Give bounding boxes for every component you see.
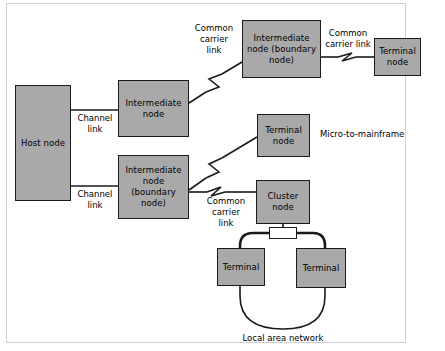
node-intermediate-boundary-top-label: Intermediate node (boundary node) (243, 33, 320, 66)
node-host-label: Host node (21, 138, 65, 149)
node-terminal-left-label: Terminal (223, 262, 260, 273)
diagram-canvas: Host node Intermediate node Intermediate… (0, 0, 445, 351)
annotation-local-area-network: Local area network (233, 333, 333, 344)
line-common-carrier-upper-seg1 (189, 92, 206, 103)
line-lan-loop (240, 285, 325, 329)
line-common-carrier-mid-seg2 (222, 137, 257, 158)
label-common-carrier-link-upper: Common carrier link (183, 23, 245, 56)
line-common-carrier-upper-zigzag (206, 74, 222, 92)
label-channel-link-bottom: Channel link (72, 189, 118, 211)
node-terminal-node-mid[interactable]: Terminal node (257, 114, 310, 157)
node-terminal-right-label: Terminal (303, 263, 340, 274)
node-intermediate-boundary-left-label: Intermediate node (boundary node) (119, 165, 188, 209)
node-terminal-right[interactable]: Terminal (296, 248, 346, 288)
node-host[interactable]: Host node (15, 85, 71, 201)
node-intermediate-top-label: Intermediate node (119, 98, 188, 120)
node-intermediate-boundary-left[interactable]: Intermediate node (boundary node) (118, 155, 189, 219)
annotation-micro-to-mainframe: Micro-to-mainframe (320, 129, 404, 140)
node-cluster[interactable]: Cluster node (256, 180, 310, 224)
line-common-carrier-mid-zigzag (206, 158, 222, 178)
label-channel-link-top: Channel link (72, 113, 118, 135)
line-common-carrier-upper-seg2 (222, 62, 242, 74)
line-common-carrier-top-right-zigzag (338, 53, 356, 61)
node-intermediate-top[interactable]: Intermediate node (118, 80, 189, 137)
node-terminal-node-top-label: Terminal node (375, 46, 420, 68)
lan-connector-box (269, 227, 297, 239)
node-terminal-node-mid-label: Terminal node (258, 125, 309, 147)
node-terminal-left[interactable]: Terminal (217, 248, 265, 286)
node-cluster-label: Cluster node (257, 191, 309, 213)
label-common-carrier-link-top-right: Common carrier link (318, 28, 378, 50)
line-common-carrier-lower-zigzag (207, 187, 225, 196)
line-common-carrier-mid-seg1 (189, 178, 206, 190)
node-intermediate-boundary-top[interactable]: Intermediate node (boundary node) (242, 20, 321, 78)
node-terminal-node-top[interactable]: Terminal node (374, 38, 421, 76)
label-common-carrier-link-lower: Common carrier link (196, 196, 256, 229)
